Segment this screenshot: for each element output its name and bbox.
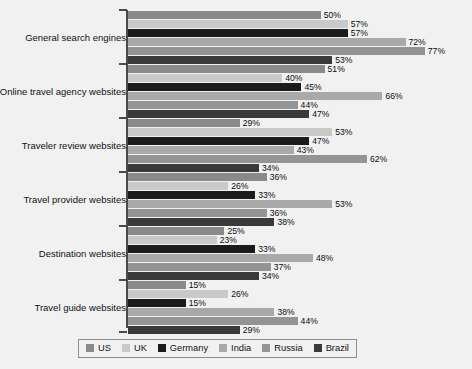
bar-india — [128, 200, 332, 208]
bar-group: Traveler review websites29%53%47%43%62%3… — [0, 119, 472, 173]
bar-russia — [128, 263, 271, 271]
bar-value-label: 15% — [186, 299, 206, 308]
bar-value-label: 43% — [294, 146, 314, 155]
legend-swatch-icon — [122, 344, 130, 352]
bar-russia — [128, 101, 298, 109]
legend-swatch-icon — [262, 344, 270, 352]
bar-group: Online travel agency websites51%40%45%66… — [0, 65, 472, 119]
bar-germany — [128, 191, 255, 199]
bar-russia — [128, 47, 425, 55]
bar-row: 44% — [0, 101, 472, 109]
legend-item-brazil[interactable]: Brazil — [314, 344, 349, 353]
bar-row: 40% — [0, 74, 472, 82]
bar-value-label: 48% — [313, 254, 333, 263]
bar-group: General search engines50%57%57%72%77%53% — [0, 11, 472, 65]
legend-label: UK — [134, 344, 147, 353]
bar-row: 57% — [0, 20, 472, 28]
bar-value-label: 77% — [425, 47, 445, 56]
bar-row: 29% — [0, 326, 472, 334]
bar-chart: General search engines50%57%57%72%77%53%… — [0, 0, 472, 369]
bar-row: 48% — [0, 254, 472, 262]
bar-germany — [128, 245, 255, 253]
legend-item-germany[interactable]: Germany — [158, 344, 208, 353]
bar-row: 53% — [0, 56, 472, 64]
legend-item-us[interactable]: US — [86, 344, 111, 353]
bar-value-label: 26% — [228, 290, 248, 299]
bar-value-label: 57% — [348, 29, 368, 38]
bar-row: 26% — [0, 290, 472, 298]
legend-swatch-icon — [219, 344, 227, 352]
bar-uk — [128, 128, 332, 136]
legend-label: Germany — [170, 344, 208, 353]
bar-value-label: 47% — [309, 110, 329, 119]
bar-uk — [128, 236, 217, 244]
bar-value-label: 53% — [332, 128, 352, 137]
bar-value-label: 72% — [406, 38, 426, 47]
bar-row: 53% — [0, 128, 472, 136]
bar-us — [128, 281, 186, 289]
bar-group: Travel guide websites15%26%15%38%44%29% — [0, 281, 472, 335]
bar-row: 51% — [0, 65, 472, 73]
bar-row: 33% — [0, 191, 472, 199]
bar-value-label: 33% — [255, 191, 275, 200]
legend-swatch-icon — [86, 344, 94, 352]
bar-value-label: 23% — [217, 236, 237, 245]
legend-label: India — [231, 344, 251, 353]
bar-row: 37% — [0, 263, 472, 271]
bar-value-label: 15% — [186, 281, 206, 290]
bar-india — [128, 146, 294, 154]
bar-germany — [128, 29, 348, 37]
bar-row: 36% — [0, 209, 472, 217]
bar-brazil — [128, 164, 259, 172]
bar-row: 62% — [0, 155, 472, 163]
bar-value-label: 36% — [267, 173, 287, 182]
bar-row: 38% — [0, 308, 472, 316]
bar-value-label: 40% — [282, 74, 302, 83]
bar-value-label: 44% — [298, 317, 318, 326]
legend-item-russia[interactable]: Russia — [262, 344, 302, 353]
bar-value-label: 26% — [228, 182, 248, 191]
bar-russia — [128, 155, 367, 163]
bar-value-label: 62% — [367, 155, 387, 164]
legend-item-india[interactable]: India — [219, 344, 251, 353]
bar-brazil — [128, 56, 332, 64]
bar-uk — [128, 290, 228, 298]
plot-area: General search engines50%57%57%72%77%53%… — [0, 0, 472, 332]
bar-india — [128, 38, 406, 46]
bar-uk — [128, 74, 282, 82]
bar-row: 50% — [0, 11, 472, 19]
legend-label: Russia — [274, 344, 302, 353]
bar-group: Destination websites25%23%33%48%37%34% — [0, 227, 472, 281]
bar-row: 47% — [0, 137, 472, 145]
bar-row: 34% — [0, 272, 472, 280]
bar-group: Travel provider websites36%26%33%53%36%3… — [0, 173, 472, 227]
bar-us — [128, 119, 240, 127]
bar-germany — [128, 83, 301, 91]
bar-row: 26% — [0, 182, 472, 190]
bar-row: 29% — [0, 119, 472, 127]
bar-row: 34% — [0, 164, 472, 172]
bar-uk — [128, 20, 348, 28]
bar-germany — [128, 137, 309, 145]
bar-brazil — [128, 326, 240, 334]
bar-india — [128, 308, 274, 316]
legend-item-uk[interactable]: UK — [122, 344, 147, 353]
bar-row: 23% — [0, 236, 472, 244]
bar-value-label: 29% — [240, 326, 260, 335]
bar-value-label: 51% — [325, 65, 345, 74]
bar-value-label: 38% — [274, 308, 294, 317]
bar-row: 66% — [0, 92, 472, 100]
bar-brazil — [128, 218, 274, 226]
legend-swatch-icon — [314, 344, 322, 352]
bar-row: 47% — [0, 110, 472, 118]
legend-swatch-icon — [158, 344, 166, 352]
bar-value-label: 53% — [332, 200, 352, 209]
bar-row: 53% — [0, 200, 472, 208]
bar-value-label: 29% — [240, 119, 260, 128]
bar-value-label: 33% — [255, 245, 275, 254]
bar-row: 15% — [0, 299, 472, 307]
bar-row: 72% — [0, 38, 472, 46]
bar-us — [128, 11, 321, 19]
bar-russia — [128, 209, 267, 217]
bar-value-label: 45% — [301, 83, 321, 92]
